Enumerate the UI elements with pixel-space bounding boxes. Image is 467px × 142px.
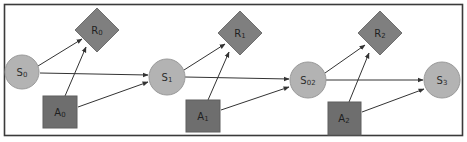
node-state-s02: S02 — [290, 62, 326, 98]
mdp-diagram: S0 A0 R0 S1 A1 R1 — [0, 0, 467, 142]
node-action-a0: A0 — [43, 96, 77, 128]
node-state-s3: S3 — [424, 62, 460, 98]
node-action-a2: A2 — [328, 102, 361, 135]
node-state-s1: S1 — [149, 59, 185, 95]
node-state-s0: S0 — [5, 55, 39, 89]
node-action-a1: A1 — [186, 100, 220, 132]
